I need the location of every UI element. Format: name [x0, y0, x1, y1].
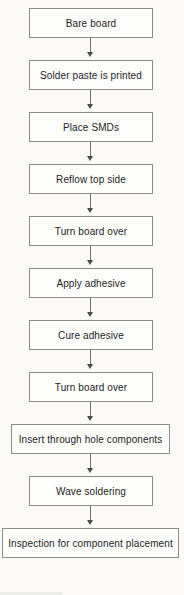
step-label: Inspection for component placement	[8, 538, 173, 549]
step-label: Reflow top side	[56, 174, 126, 185]
arrow-down-icon-7	[87, 364, 93, 369]
flowchart-step-turn-board-over-1: Turn board over	[29, 216, 153, 246]
step-label: Bare board	[66, 18, 116, 29]
arrow-down-icon-2	[87, 104, 93, 109]
flowchart-step-place-smds: Place SMDs	[29, 112, 153, 142]
flowchart-step-bare-board: Bare board	[29, 8, 153, 38]
step-label: Cure adhesive	[58, 330, 124, 341]
step-label: Apply adhesive	[56, 278, 125, 289]
flowchart-step-inspection-for-component-placement: Inspection for component placement	[2, 528, 179, 558]
flowchart-step-apply-adhesive: Apply adhesive	[29, 268, 153, 298]
flowchart-step-solder-paste-is-printed: Solder paste is printed	[29, 60, 153, 90]
arrow-down-icon-9	[87, 468, 93, 473]
step-label: Insert through hole components	[19, 434, 163, 445]
step-label: Turn board over	[55, 382, 127, 393]
flowchart-step-reflow-top-side: Reflow top side	[29, 164, 153, 194]
arrow-down-icon-1	[87, 52, 93, 57]
step-label: Solder paste is printed	[40, 70, 142, 81]
flowchart-step-turn-board-over-2: Turn board over	[29, 372, 153, 402]
arrow-down-icon-10	[87, 520, 93, 525]
arrow-down-icon-8	[87, 416, 93, 421]
step-label: Wave soldering	[56, 486, 126, 497]
arrow-down-icon-5	[87, 260, 93, 265]
flowchart-step-cure-adhesive: Cure adhesive	[29, 320, 153, 350]
flowchart-diagram: Bare board Solder paste is printed Place…	[0, 0, 184, 595]
step-label: Turn board over	[55, 226, 127, 237]
arrow-down-icon-4	[87, 208, 93, 213]
flowchart-step-wave-soldering: Wave soldering	[29, 476, 153, 506]
arrow-down-icon-3	[87, 156, 93, 161]
arrow-down-icon-6	[87, 312, 93, 317]
step-label: Place SMDs	[63, 122, 119, 133]
flowchart-step-insert-through-hole-components: Insert through hole components	[11, 424, 170, 454]
